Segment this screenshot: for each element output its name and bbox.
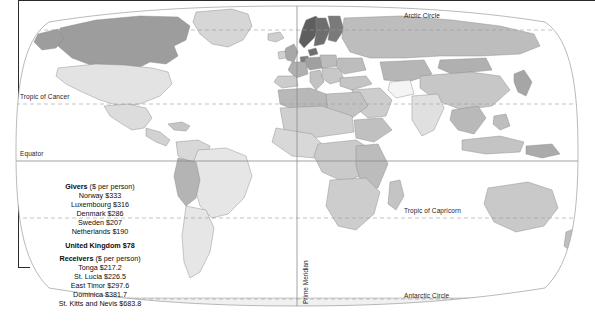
label-equator: Equator [20, 151, 43, 158]
giver-entry: Netherlands $190 [24, 227, 176, 236]
giver-entry: Denmark $286 [24, 209, 176, 218]
receivers-title: Receivers [59, 254, 93, 263]
receiver-entry: Dominica $381.7 [24, 290, 176, 299]
givers-heading: Givers ($ per person) [24, 182, 176, 191]
receiver-entry: St. Kitts and Nevis $683.8 [24, 299, 176, 308]
giver-entry: Luxembourg $316 [24, 200, 176, 209]
receiver-entry: East Timor $297.6 [24, 281, 176, 290]
givers-title: Givers [65, 182, 87, 191]
receivers-heading: Receivers ($ per person) [24, 254, 176, 263]
receiver-entry: St. Lucia $226.5 [24, 272, 176, 281]
country-ireland [278, 51, 286, 59]
giver-entry: Sweden $207 [24, 218, 176, 227]
label-arctic-circle: Arctic Circle [404, 13, 440, 20]
giver-entry-highlight: United Kingdom $78 [24, 241, 176, 250]
givers-unit: ($ per person) [90, 182, 135, 191]
receiver-entry: Tonga $217.2 [24, 263, 176, 272]
label-tropic-of-cancer: Tropic of Cancer [20, 94, 69, 101]
label-tropic-of-capricorn: Tropic of Capricorn [404, 208, 461, 215]
label-antarctic-circle: Antarctic Circle [404, 293, 449, 300]
giver-entry: Norway $333 [24, 191, 176, 200]
aid-legend: Givers ($ per person) Norway $333 Luxemb… [24, 182, 176, 308]
country-poland [320, 55, 338, 68]
receivers-unit: ($ per person) [95, 254, 140, 263]
world-map-figure: Arctic Circle Tropic of Cancer Equator T… [0, 0, 595, 323]
label-prime-meridian: Prime Meridian [303, 260, 310, 304]
